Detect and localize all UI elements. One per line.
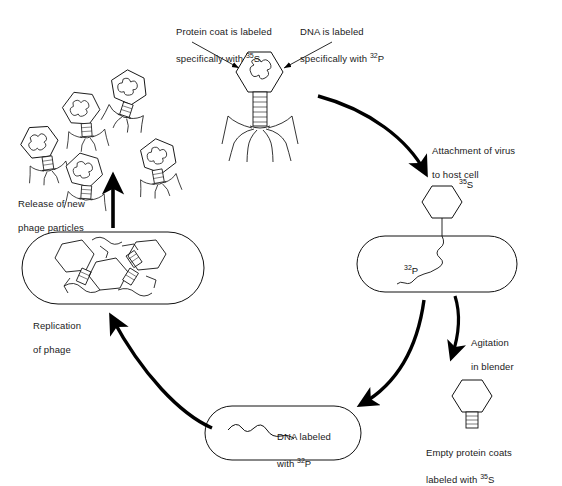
- label-agitation-line2: in blender: [471, 361, 514, 372]
- label-agitation-line1: Agitation: [471, 337, 509, 348]
- label-agitation: Agitation in blender: [471, 325, 514, 373]
- infected-host-cell: [357, 236, 517, 292]
- released-phage: [14, 119, 75, 192]
- label-replication-line1: Replication: [33, 320, 81, 331]
- marker-element-s: S: [467, 179, 473, 190]
- label-dna-in-cell-line2: with: [277, 458, 297, 469]
- label-protein-coat-line1: Protein coat is labeled: [176, 26, 272, 37]
- dna-in-cell-isotope-32: 32: [297, 457, 305, 464]
- dna-in-cell-element-p: P: [305, 458, 311, 469]
- released-phage: [132, 137, 191, 208]
- label-protein-coat-line2: specifically with: [176, 53, 246, 64]
- isotope-32-superscript: 32: [370, 52, 378, 59]
- label-empty-coats-line1: Empty protein coats: [426, 447, 512, 458]
- diagram-canvas: Protein coat is labeled specifically wit…: [0, 0, 562, 486]
- attached-phage-glyph: [422, 186, 462, 236]
- marker-head-s35: 35S: [459, 176, 473, 190]
- arrow-agitation: [452, 296, 459, 356]
- element-s: S: [254, 53, 260, 64]
- marker-isotope-32: 32: [404, 264, 412, 271]
- label-release-line2: phage particles: [18, 222, 84, 233]
- arrow-to-attachment: [318, 96, 425, 172]
- replication-host-cell: [22, 232, 204, 304]
- arrow-to-replication: [112, 318, 212, 428]
- label-dna-in-cell-line1: DNA labeled: [277, 431, 331, 442]
- empty-coat-glyph: [452, 380, 492, 428]
- label-dna-in-cell: DNA labeled with 32P: [277, 419, 331, 470]
- label-dna-labeled-line2: specifically with: [300, 53, 370, 64]
- free-phage-glyph: [222, 52, 298, 162]
- marker-isotope-35: 35: [459, 178, 467, 185]
- label-release-line1: Release of new: [18, 198, 85, 209]
- arrow-to-bottom-cell: [362, 300, 424, 404]
- marker-dna-p32: 32P: [404, 262, 418, 276]
- diagram-artwork: [0, 0, 562, 486]
- label-replication: Replication of phage: [33, 308, 81, 356]
- label-dna-labeled: DNA is labeled specifically with 32P: [300, 14, 384, 65]
- label-attachment: Attachment of virus to host cell: [432, 133, 515, 181]
- empty-coats-isotope-35: 35: [480, 473, 488, 480]
- label-release: Release of new phage particles: [18, 186, 85, 234]
- label-dna-labeled-line1: DNA is labeled: [300, 26, 364, 37]
- released-phage: [61, 89, 110, 154]
- label-protein-coat: Protein coat is labeled specifically wit…: [176, 14, 272, 65]
- element-p: P: [378, 53, 384, 64]
- label-empty-coats-line2: labeled with: [426, 474, 480, 485]
- empty-coats-element-s: S: [488, 474, 494, 485]
- released-phage: [99, 67, 156, 138]
- label-attachment-line1: Attachment of virus: [432, 145, 515, 156]
- label-replication-line2: of phage: [33, 344, 71, 355]
- isotope-35-superscript: 35: [246, 52, 254, 59]
- label-empty-coats: Empty protein coats labeled with 35S: [426, 435, 512, 486]
- marker-element-p: P: [412, 265, 418, 276]
